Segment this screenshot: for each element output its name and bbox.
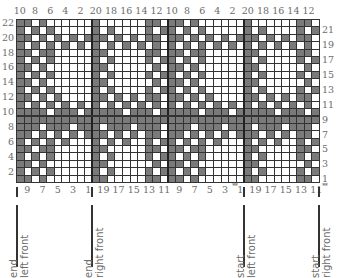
chart-cell: [184, 35, 191, 41]
chart-cell: [305, 131, 312, 137]
chart-cell: [244, 94, 251, 100]
chart-cell: [70, 102, 77, 108]
chart-cell: [55, 131, 62, 137]
chart-cell: [62, 176, 69, 182]
chart-cell: [108, 27, 115, 33]
chart-cell: [93, 64, 100, 70]
chart-cell: [199, 87, 206, 93]
chart-cell: [244, 176, 251, 182]
chart-cell: [40, 161, 47, 167]
chart-cell: [244, 139, 251, 145]
chart-cell: [282, 161, 289, 167]
chart-cell: [108, 35, 115, 41]
chart-cell: [214, 168, 221, 174]
chart-cell: [138, 57, 145, 63]
chart-cell: [244, 146, 251, 152]
chart-cell: [93, 79, 100, 85]
chart-cell: [176, 146, 183, 152]
chart-cell: [191, 94, 198, 100]
chart-cell: [123, 176, 130, 182]
chart-cell: [191, 64, 198, 70]
chart-cell: [40, 168, 47, 174]
chart-cell: [40, 20, 47, 26]
chart-cell: [297, 146, 304, 152]
chart-cell: [78, 94, 85, 100]
chart-cell: [244, 168, 251, 174]
chart-cell: [55, 79, 62, 85]
chart-cell: [229, 131, 236, 137]
chart-cell: [214, 72, 221, 78]
chart-cell: [229, 42, 236, 48]
marker-tick-start-right-front: [318, 187, 320, 197]
chart-cell: [47, 161, 54, 167]
chart-cell: [47, 168, 54, 174]
chart-cell: [267, 64, 274, 70]
chart-cell: [206, 124, 213, 130]
chart-cell: [244, 50, 251, 56]
chart-cell: [191, 42, 198, 48]
chart-cell: [275, 161, 282, 167]
chart-cell: [214, 153, 221, 159]
chart-cell: [222, 153, 229, 159]
chart-cell: [47, 72, 54, 78]
chart-cell: [100, 57, 107, 63]
chart-cell: [312, 79, 319, 85]
chart-cell: [290, 146, 297, 152]
chart-cell: [275, 139, 282, 145]
chart-cell: [40, 50, 47, 56]
chart-cell: [206, 161, 213, 167]
chart-cell: [191, 35, 198, 41]
chart-cell: [100, 153, 107, 159]
chart-cell: [305, 42, 312, 48]
chart-cell: [267, 72, 274, 78]
chart-cell: [70, 146, 77, 152]
chart-cell: [17, 116, 24, 122]
chart-cell: [184, 153, 191, 159]
chart-cell: [176, 102, 183, 108]
chart-cell: [312, 124, 319, 130]
column-number: 15: [128, 185, 140, 195]
chart-cell: [123, 146, 130, 152]
chart-cell: [17, 139, 24, 145]
chart-cell: [47, 102, 54, 108]
chart-cell: [184, 27, 191, 33]
chart-cell: [123, 35, 130, 41]
chart-cell: [146, 176, 153, 182]
chart-cell: [70, 139, 77, 145]
chart-cell: [176, 64, 183, 70]
chart-cell: [267, 176, 274, 182]
chart-cell: [78, 87, 85, 93]
chart-cell: [100, 50, 107, 56]
chart-cell: [305, 139, 312, 145]
chart-cell: [153, 176, 160, 182]
chart-cell: [70, 64, 77, 70]
chart-cell: [153, 35, 160, 41]
row-number: 8: [0, 122, 14, 132]
chart-cell: [40, 139, 47, 145]
chart-cell: [267, 131, 274, 137]
chart-cell: [32, 176, 39, 182]
column-number: 12: [303, 6, 315, 16]
chart-cell: [40, 64, 47, 70]
chart-cell: [138, 139, 145, 145]
chart-cell: [168, 146, 175, 152]
chart-cell: [259, 146, 266, 152]
chart-cell: [252, 176, 259, 182]
chart-cell: [62, 42, 69, 48]
chart-cell: [123, 139, 130, 145]
chart-cell: [153, 42, 160, 48]
chart-cell: [123, 20, 130, 26]
chart-cell: [40, 57, 47, 63]
chart-cell: [222, 72, 229, 78]
chart-cell: [123, 116, 130, 122]
chart-cell: [153, 124, 160, 130]
chart-cell: [252, 79, 259, 85]
chart-cell: [70, 94, 77, 100]
chart-cell: [146, 50, 153, 56]
chart-cell: [252, 116, 259, 122]
chart-cell: [153, 102, 160, 108]
chart-cell: [229, 139, 236, 145]
chart-cell: [131, 57, 138, 63]
chart-cell: [100, 102, 107, 108]
chart-cell: [252, 42, 259, 48]
